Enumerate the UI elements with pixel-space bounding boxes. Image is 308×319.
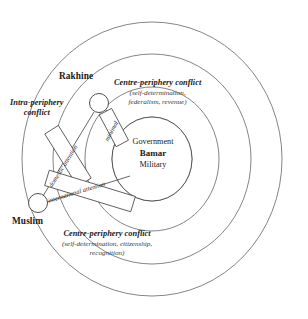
annotation-centre-periphery-top: Centre-periphery conflict (self-determin… <box>114 71 201 107</box>
core-line-military: Military <box>118 159 188 170</box>
centre-periphery-top-sub-1: (self-determination, <box>114 89 201 98</box>
core-line-bamar: Bamar <box>118 147 188 159</box>
node-circle-rakhine <box>90 94 109 113</box>
centre-periphery-diagram: Government Bamar Military Rakhine Muslim… <box>0 0 308 319</box>
centre-periphery-top-sub-2: federalism, revenue) <box>114 98 201 107</box>
annotation-centre-periphery-bottom: Centre-periphery conflict (self-determin… <box>62 222 152 258</box>
centre-periphery-bottom-sub-1: (self-determination, citizenship, <box>62 240 152 249</box>
centre-periphery-bottom-sub-2: recognition) <box>62 249 152 258</box>
annotation-intra-periphery-conflict: Intra-periphery conflict <box>10 98 64 119</box>
intra-periphery-line-2: conflict <box>10 108 64 118</box>
node-circle-muslim <box>29 194 48 213</box>
core-label: Government Bamar Military <box>118 136 188 170</box>
node-label-muslim: Muslim <box>12 216 43 226</box>
centre-periphery-top-heading: Centre-periphery conflict <box>114 78 201 87</box>
node-label-rakhine: Rakhine <box>59 71 93 81</box>
centre-periphery-bottom-heading: Centre-periphery conflict <box>63 229 150 238</box>
core-line-government: Government <box>118 136 188 147</box>
intra-periphery-line-1: Intra-periphery <box>10 98 64 108</box>
